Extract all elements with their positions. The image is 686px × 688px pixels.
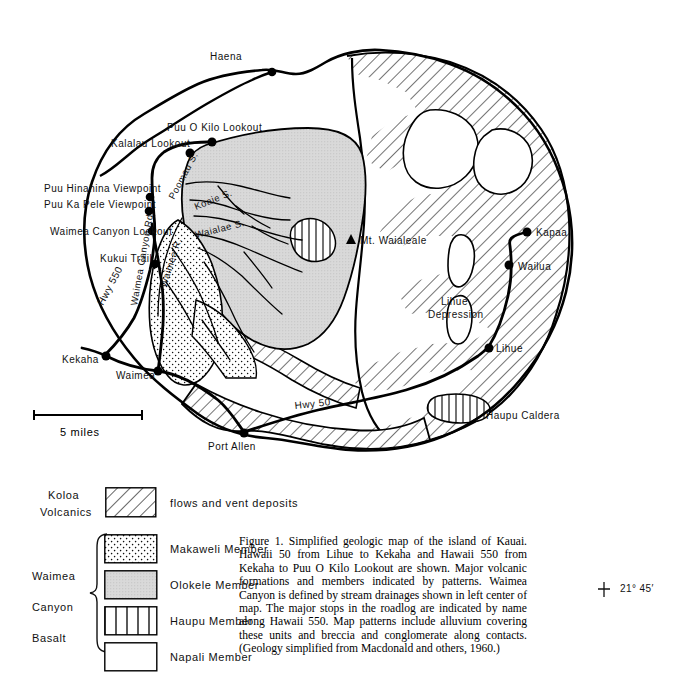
figure-caption: Figure 1. Simplified geologic map of the… — [239, 535, 527, 656]
place-label-kekaha: Kekaha — [62, 354, 99, 365]
place-label-waimea: Waimea — [116, 370, 155, 381]
place-label-waimea-canyon-lookout: Waimea Canyon Lookout — [50, 226, 172, 237]
place-dot-kapaa — [523, 228, 532, 237]
place-dot-puu-o-kilo — [208, 138, 217, 147]
label-mt-waialeale: Mt. Waialeale — [360, 235, 427, 246]
legend-group-koloa-line1: Koloa — [48, 489, 79, 501]
place-label-puu-hinahina: Puu Hinahina Viewpoint — [44, 183, 161, 194]
legend-swatch-napali — [104, 642, 158, 672]
place-label-puu-o-kilo: Puu O Kilo Lookout — [167, 122, 262, 133]
legend-group-waimea-line1: Waimea — [32, 570, 76, 582]
place-label-kalalau: Kalalau Lookout — [111, 138, 190, 149]
place-dot-lihue — [485, 344, 494, 353]
place-label-haena: Haena — [210, 51, 242, 62]
place-dot-port-allen — [240, 429, 249, 438]
label-lihue-depression-line1: Lihue — [441, 296, 468, 307]
legend-group-waimea-line2: Canyon — [32, 601, 74, 613]
legend-label-koloa-flows: flows and vent deposits — [170, 497, 298, 509]
place-dot-haena — [268, 68, 277, 77]
legend-swatch-haupu — [104, 606, 158, 636]
label-lihue-depression-line2: Depression — [428, 309, 484, 320]
scale-bar-label: 5 miles — [60, 426, 100, 438]
place-label-wailua: Wailua — [518, 261, 551, 272]
kauai-map: Haena Puu O Kilo Lookout Kalalau Lookout… — [0, 0, 686, 470]
place-label-lihue: Lihue — [496, 343, 523, 354]
place-dot-wailua — [505, 261, 514, 270]
figure-geologic-map-of-kauai: 159° 45′ 159° 30′ 159° 15′ 22° 15′ 22° 2… — [0, 0, 686, 688]
scale-bar — [33, 414, 143, 416]
place-label-port-allen: Port Allen — [208, 441, 256, 452]
legend-swatch-olokele — [104, 570, 158, 600]
place-dot-kekaha — [102, 352, 111, 361]
haupu-caldera-unit — [427, 394, 490, 423]
legend-group-koloa-line2: Volcanics — [40, 506, 92, 518]
place-label-puu-ka-pele: Puu Ka Pele Viewpoint — [44, 199, 156, 210]
place-label-kapaa: Kapaa — [536, 227, 567, 238]
legend-swatch-makaweli — [104, 534, 158, 564]
legend-swatch-koloa-flows — [105, 487, 157, 518]
legend-group-waimea-line3: Basalt — [32, 632, 66, 644]
label-haupu-caldera: Haupu Caldera — [486, 410, 560, 421]
